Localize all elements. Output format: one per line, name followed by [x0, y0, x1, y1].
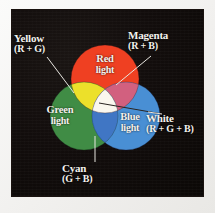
- label-green-name: Green: [47, 104, 74, 115]
- label-blue-name: Blue: [120, 111, 140, 122]
- label-magenta: Magenta (R + B): [128, 30, 168, 51]
- label-magenta-formula: (R + B): [128, 41, 168, 51]
- label-yellow-formula: (R + G): [14, 44, 45, 54]
- label-green-sub: light: [40, 116, 80, 126]
- figure-root: Yellow (R + G) Magenta (R + B) White (R …: [0, 0, 215, 213]
- label-green-light: Green light: [40, 105, 80, 126]
- leader-line-yellow: [47, 57, 74, 93]
- label-cyan-formula: (G + B): [62, 174, 92, 184]
- label-red-sub: light: [88, 65, 122, 75]
- label-yellow: Yellow (R + G): [14, 33, 45, 54]
- label-white-formula: (R + G + B): [146, 124, 194, 134]
- label-white: White (R + G + B): [146, 113, 194, 134]
- label-red-name: Red: [96, 53, 113, 64]
- label-blue-light: Blue light: [113, 112, 147, 133]
- label-cyan: Cyan (G + B): [62, 163, 92, 184]
- label-red-light: Red light: [88, 54, 122, 75]
- label-blue-sub: light: [113, 123, 147, 133]
